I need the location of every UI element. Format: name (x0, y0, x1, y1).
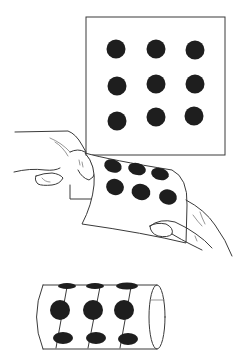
flat-sheet (86, 17, 225, 155)
dot (147, 40, 166, 59)
left-hand (14, 131, 95, 199)
dot (86, 332, 106, 344)
dot (107, 40, 126, 59)
dot (58, 283, 76, 289)
dot (108, 112, 127, 131)
dot-grid (107, 40, 205, 131)
illustration (0, 0, 244, 362)
dot (116, 283, 138, 290)
cylinder-left-end (37, 285, 44, 349)
dot (86, 283, 104, 289)
dot (53, 332, 73, 344)
dot (114, 300, 134, 320)
cylinder-right-end (149, 285, 165, 349)
dot (147, 108, 166, 127)
dot (118, 333, 138, 345)
cylinder-dots (50, 283, 138, 346)
dot (108, 77, 127, 96)
dot (83, 300, 103, 320)
dot (50, 300, 70, 320)
dot (147, 75, 166, 94)
cylinder-panel (37, 283, 166, 350)
dot (185, 107, 204, 126)
dot (186, 75, 205, 94)
dot (186, 41, 205, 60)
